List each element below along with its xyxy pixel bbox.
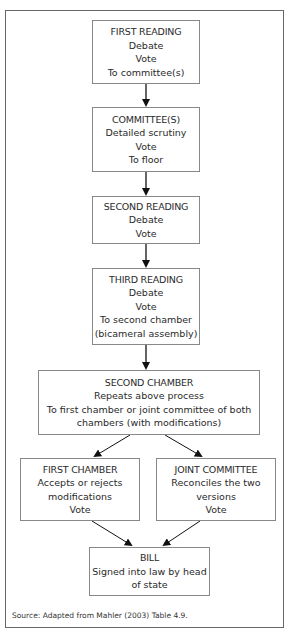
box-second-chamber: SECOND CHAMBER Repeats above process To …	[38, 370, 260, 435]
box-line: chambers (with modifications)	[77, 416, 222, 430]
box-second-reading: SECOND READING Debate Vote	[92, 196, 200, 244]
box-title: THIRD READING	[109, 273, 183, 287]
box-line: To floor	[129, 153, 164, 167]
box-line: Debate	[129, 39, 164, 53]
arrow-first-chamber-to-bill	[92, 521, 131, 545]
box-title: SECOND CHAMBER	[105, 376, 193, 390]
box-title: FIRST READING	[111, 25, 182, 39]
box-line: modifications	[48, 490, 112, 504]
box-line: Vote	[205, 503, 226, 517]
box-title: SECOND READING	[104, 200, 188, 214]
box-title: COMMITTEE(S)	[112, 113, 180, 127]
arrow-joint-committee-to-bill	[164, 521, 200, 545]
box-line: Accepts or rejects	[37, 476, 122, 490]
box-line: Vote	[135, 300, 156, 314]
box-third-reading: THIRD READING Debate Vote To second cham…	[92, 268, 200, 345]
source-caption: Source: Adapted from Mahler (2003) Table…	[12, 611, 188, 620]
arrow-second-chamber-to-joint-committee	[165, 435, 201, 456]
box-line: To second chamber	[100, 313, 192, 327]
box-line: Vote	[135, 227, 156, 241]
box-line: of state	[131, 578, 167, 592]
box-line: Reconciles the two	[171, 476, 260, 490]
box-title: FIRST CHAMBER	[43, 463, 118, 477]
box-line: (bicameral assembly)	[95, 327, 198, 341]
box-line: Debate	[129, 213, 164, 227]
arrow-second-chamber-to-first-chamber	[95, 435, 130, 456]
box-line: To committee(s)	[108, 66, 185, 80]
box-bill: BILL Signed into law by head of state	[89, 547, 210, 596]
box-joint-committee: JOINT COMMITTEE Reconciles the two versi…	[156, 458, 276, 521]
box-line: To first chamber or joint committee of b…	[47, 403, 251, 417]
box-title: JOINT COMMITTEE	[175, 463, 258, 477]
box-line: Repeats above process	[94, 389, 204, 403]
box-line: versions	[196, 490, 236, 504]
box-first-reading: FIRST READING Debate Vote To committee(s…	[92, 20, 200, 84]
box-first-chamber: FIRST CHAMBER Accepts or rejects modific…	[20, 458, 140, 521]
box-line: Vote	[69, 503, 90, 517]
box-line: Debate	[129, 286, 164, 300]
box-title: BILL	[140, 551, 159, 565]
box-line: Vote	[135, 140, 156, 154]
box-committees: COMMITTEE(S) Detailed scrutiny Vote To f…	[92, 107, 200, 172]
box-line: Signed into law by head	[92, 565, 206, 579]
box-line: Vote	[135, 52, 156, 66]
box-line: Detailed scrutiny	[106, 126, 187, 140]
